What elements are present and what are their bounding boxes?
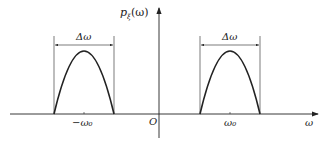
right-spectrum-lobe: [200, 51, 260, 114]
right-center-label: ω₀: [224, 117, 236, 128]
origin-label: O: [149, 116, 157, 127]
y-axis-label: pξ(ω): [120, 6, 148, 21]
bandwidth-label-right: Δω: [222, 31, 237, 42]
spectrum-diagram: [0, 0, 325, 142]
left-spectrum-lobe: [54, 51, 114, 114]
bandwidth-label-left: Δω: [76, 31, 91, 42]
x-axis-label: ω: [305, 117, 313, 128]
left-center-label: −ω₀: [72, 117, 93, 128]
